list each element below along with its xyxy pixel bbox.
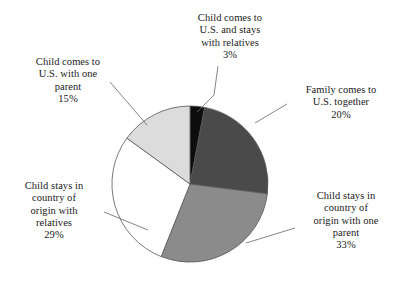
pie-label-child-comes-to-us-with-one-parent: Child comes to U.S. with one parent 15%: [14, 56, 122, 105]
pie-slices: [112, 106, 268, 262]
pie-label-family-comes-to-us-together: Family comes to U.S. together 20%: [288, 84, 394, 121]
pie-label-child-comes-to-us-stays-with-relatives: Child comes to U.S. and stays with relat…: [163, 12, 297, 61]
pie-label-child-stays-in-country-of-origin-with-one-parent: Child stays in country of origin with on…: [296, 190, 396, 251]
pie-label-child-stays-in-country-of-origin-with-relatives: Child stays in country of origin with re…: [2, 180, 106, 241]
leader-line-child-relatives: [197, 66, 218, 112]
pie-chart-figure: Child comes to U.S. and stays with relat…: [0, 0, 399, 281]
leader-line-family-together: [255, 104, 287, 123]
